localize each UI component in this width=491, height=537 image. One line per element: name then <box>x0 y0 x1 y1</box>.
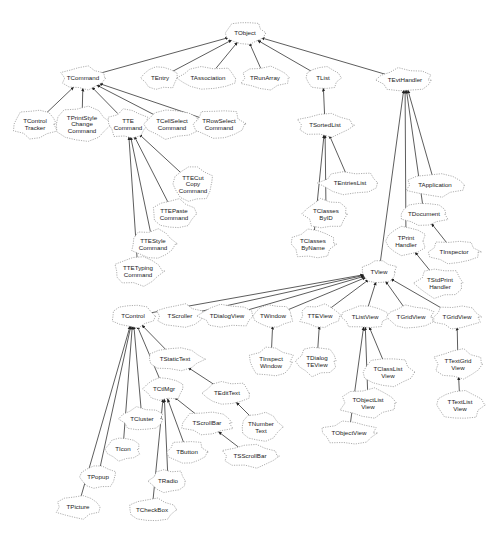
class-node-ttextlistview: TTextListView <box>437 391 486 419</box>
class-node-tsscrollbar: TSScrollBar <box>222 444 279 468</box>
class-node-label: TEView <box>306 361 328 368</box>
class-node-label: TSortedList <box>309 121 341 128</box>
inheritance-arrow-tnumbertext-to-tedittext <box>236 402 251 417</box>
class-node-label: TStaticText <box>160 355 191 362</box>
class-node-label: TWindow <box>260 312 286 319</box>
inheritance-arrow-tapplication-to-tevthandler <box>408 90 432 175</box>
class-node-label: Command <box>160 214 189 221</box>
inheritance-arrow-tbutton-to-tctlmgr <box>168 399 184 443</box>
class-node-label: TObject <box>234 29 256 36</box>
class-node-ttestylecommand: TTEStyleCommand <box>132 229 178 259</box>
class-node-ttepastecommand: TTEPasteCommand <box>153 199 197 228</box>
class-node-label: TPopup <box>87 473 109 480</box>
inheritance-arrow-tradio-to-tctlmgr <box>164 399 167 471</box>
inheritance-arrow-tdialogteview-to-tteview <box>318 326 320 349</box>
class-node-tclasslistview: TClassListView <box>363 359 415 387</box>
class-node-tpopup: TPopup <box>80 466 116 488</box>
class-node-label: TView <box>370 268 388 275</box>
class-node-label: Command <box>205 124 234 131</box>
inheritance-arrow-tdialogview-to-tview <box>247 276 365 310</box>
class-node-ttecommand: TTECommand <box>108 109 149 138</box>
class-node-label: Command <box>179 187 208 194</box>
inheritance-arrow-tsortedlist-to-tlist <box>323 88 324 115</box>
class-node-tcheckbox: TCheckBox <box>130 498 177 521</box>
inheritance-arrow-tscrollbar-to-tctlmgr <box>174 397 196 414</box>
class-node-tteview: TTEView <box>300 304 342 328</box>
class-node-tpicture: TPicture <box>56 496 100 520</box>
class-node-label: TGridView <box>397 313 426 320</box>
class-node-tassociation: TAssociation <box>177 67 236 90</box>
class-node-label: TAssociation <box>191 74 227 81</box>
class-node-label: TScrollBar <box>193 419 222 426</box>
class-node-label: TInspector <box>439 248 468 255</box>
class-node-tgridview1: TGridView <box>387 305 435 328</box>
class-node-tinspectwindow: TInspectWindow <box>249 347 293 376</box>
class-node-label: TApplication <box>418 181 452 188</box>
inheritance-arrow-tedittext-to-tstatictext <box>188 367 215 385</box>
class-node-tobjectview: TObjectView <box>322 421 377 444</box>
class-node-label: TRadio <box>158 477 179 484</box>
inheritance-arrow-tclassesbyid-to-tsortedlist <box>325 135 326 202</box>
class-node-label: TControl <box>121 312 145 319</box>
class-node-tscroller: TScroller <box>157 304 204 328</box>
class-node-label: TList <box>316 74 330 81</box>
inheritance-arrow-tclasslistview-to-tlistview <box>369 327 383 360</box>
class-node-tlist: TList <box>306 67 341 89</box>
inheritance-arrow-tstdprinthandler-to-tprinthandler <box>415 252 431 272</box>
class-node-label: TObjectView <box>332 429 367 436</box>
inheritance-arrow-tassociation-to-tobject <box>216 42 238 69</box>
class-node-ticon: TIcon <box>105 438 140 461</box>
class-node-tedittext: TEditText <box>202 382 250 405</box>
class-node-label: TGridView <box>443 313 472 320</box>
inheritance-arrow-tprintstylechangecommand-to-tcommand <box>82 88 83 109</box>
class-node-ttetypingcommand: TTETypingCommand <box>115 257 165 287</box>
class-node-tclassesbyid: TClassesByID <box>302 198 348 227</box>
inheritance-arrow-tentrieslist-to-tsortedlist <box>329 135 346 173</box>
class-node-label: View <box>453 405 467 412</box>
class-node-tcellselectcommand: TCellSelectCommand <box>144 110 199 139</box>
class-node-tprinthandler: TPrintHandler <box>386 226 426 255</box>
inheritance-arrow-tinspector-to-tdocument <box>431 223 446 242</box>
inheritance-arrow-ttextgridview-to-tgridview2 <box>457 327 458 352</box>
inheritance-arrow-ttestylecommand-to-ttecommand <box>131 137 151 232</box>
class-node-ttecutcopycommand: TTECutCopyCommand <box>173 167 213 201</box>
class-node-label: Handler <box>429 283 451 290</box>
class-node-label: Command <box>68 127 97 134</box>
class-node-label: TListView <box>352 313 379 320</box>
class-node-label: TScroller <box>168 312 193 319</box>
class-node-tevthandler: TEvtHandler <box>376 68 432 91</box>
class-node-trunarray: TRunArray <box>241 66 290 90</box>
class-node-label: View <box>381 372 395 379</box>
class-node-tclassesbyname: TClassesByName <box>291 229 337 258</box>
class-node-tview: TView <box>362 261 396 283</box>
class-node-tcontrol: TControl <box>112 305 155 328</box>
class-node-label: TTEView <box>308 312 334 319</box>
class-node-tdocument: TDocument <box>401 203 448 225</box>
class-node-tdialogview: TDialogView <box>197 304 254 327</box>
class-node-label: TIcon <box>115 445 131 452</box>
class-node-tnumbertext: TNumberText <box>242 412 283 441</box>
class-node-label: View <box>361 403 375 410</box>
class-node-label: TCtlMgr <box>153 385 175 392</box>
class-node-label: TCommand <box>67 74 100 81</box>
inheritance-arrow-ttepastecommand-to-ttecommand <box>134 136 168 202</box>
class-node-ttextgridview: TTextGridView <box>434 349 483 380</box>
class-node-tprintstylechangecommand: TPrintStyleChangeCommand <box>56 106 113 141</box>
inheritance-arrow-tlistview-to-tview <box>368 282 376 308</box>
nodes-layer: TObjectTCommandTEntryTAssociationTRunArr… <box>14 23 486 521</box>
class-node-label: TButton <box>176 448 198 455</box>
inheritance-arrow-trunarray-to-tobject <box>249 43 260 69</box>
class-node-tcontroltracker: TControlTracker <box>14 110 58 139</box>
class-node-tradio: TRadio <box>148 470 186 493</box>
class-node-label: TCluster <box>130 415 153 422</box>
inheritance-arrow-ttecutcopycommand-to-ttecommand <box>139 134 181 173</box>
inheritance-arrow-ttextlistview-to-ttextgridview <box>459 377 460 393</box>
class-node-trowselectcommand: TRowSelectCommand <box>193 111 247 139</box>
inheritance-arrow-tobjectlistview-to-tlistview <box>365 327 367 391</box>
class-node-label: Command <box>139 244 168 251</box>
class-node-tcluster: TCluster <box>119 407 163 430</box>
class-node-label: TEvtHandler <box>388 76 422 83</box>
class-node-label: TSScrollBar <box>233 452 266 459</box>
class-node-label: ByName <box>301 244 325 251</box>
class-node-tobject: TObject <box>225 23 266 45</box>
